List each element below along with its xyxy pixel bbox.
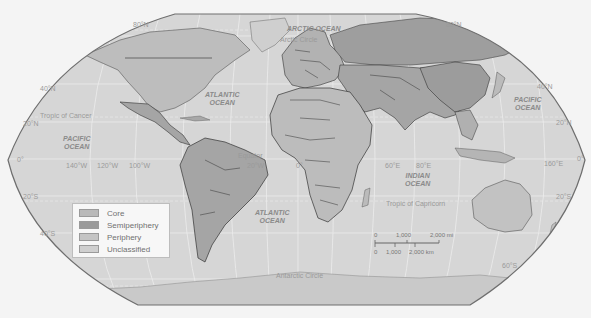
arctic-circle-label: Arctic Circle [280, 36, 317, 43]
ocean-label-atlantic-north: ATLANTICOCEAN [205, 91, 239, 107]
lat-60s-right: 60°S [502, 262, 517, 269]
legend-swatch-core [79, 209, 99, 217]
legend: Core Semiperiphery Periphery Unclassifie… [72, 203, 170, 258]
lon-120w: 120°W [97, 162, 118, 169]
lat-20s-right: 20°S [556, 193, 571, 200]
lat-20n-right: 20°N [556, 119, 572, 126]
ocean-label-atlantic-south: ATLANTICOCEAN [255, 209, 289, 225]
ocean-label-pacific-west: PACIFICOCEAN [63, 135, 90, 151]
lat-80n-right: 80°N [446, 21, 462, 28]
lat-40s-left: 40°S [40, 230, 55, 237]
legend-item-core: Core [79, 207, 163, 219]
lat-40n-right: 40°N [537, 83, 553, 90]
antarctic-circle-label: Antarctic Circle [276, 272, 323, 279]
lon-20w: 20°W [247, 162, 264, 169]
legend-item-unclassified: Unclassified [79, 243, 163, 255]
scale-bar-lines [374, 240, 444, 248]
legend-swatch-semiperiphery [79, 221, 99, 229]
legend-item-semiperiphery: Semiperiphery [79, 219, 163, 231]
lon-140w: 140°W [66, 162, 87, 169]
scale-bar: 0 1,000 2,000 mi 0 1,000 2,000 km [372, 232, 462, 262]
ocean-label-indian: INDIANOCEAN [405, 172, 430, 188]
tropic-capricorn-label: Tropic of Capricorn [386, 200, 445, 207]
tropic-cancer-label: Tropic of Cancer [40, 112, 91, 119]
lon-100w: 100°W [129, 162, 150, 169]
lon-60e: 60°E [385, 162, 400, 169]
lon-0: 0° [296, 162, 303, 169]
lon-160e: 160°E [544, 160, 563, 167]
lon-80e: 80°E [416, 162, 431, 169]
lat-40n-left: 40°N [40, 85, 56, 92]
lat-20s-left: 20°S [23, 193, 38, 200]
lat-0-left: 0° [17, 156, 24, 163]
legend-swatch-unclassified [79, 245, 99, 253]
lat-0-right: 0° [577, 155, 584, 162]
equator-label: Equator [238, 152, 263, 159]
world-map [0, 0, 591, 318]
lat-80n-left: 80°N [133, 21, 149, 28]
ocean-label-arctic: ARCTIC OCEAN [287, 25, 341, 33]
ocean-label-pacific-east: PACIFICOCEAN [514, 96, 541, 112]
lat-20n-left: 20°N [23, 120, 39, 127]
legend-swatch-periphery [79, 233, 99, 241]
legend-item-periphery: Periphery [79, 231, 163, 243]
